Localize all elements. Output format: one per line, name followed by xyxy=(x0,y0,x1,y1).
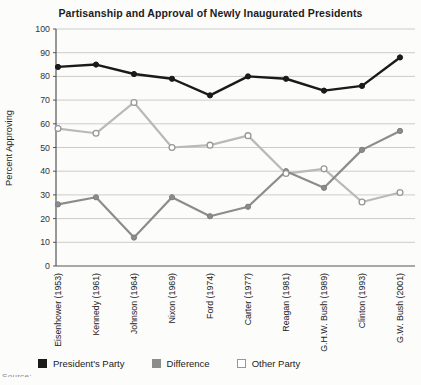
presidents-party-point xyxy=(93,62,98,67)
other-party-point xyxy=(93,130,99,136)
presidents-party-point xyxy=(55,64,60,69)
other-party-point xyxy=(397,190,403,196)
presidents-party-point xyxy=(321,88,326,93)
difference-point xyxy=(321,185,326,190)
y-tick-label: 100 xyxy=(35,24,50,34)
other-party-point xyxy=(359,199,365,205)
x-tick-label: Reagan (1981) xyxy=(281,273,291,332)
y-tick-label: 0 xyxy=(45,261,50,271)
x-tick-label: Clinton (1993) xyxy=(357,273,367,328)
presidents-party-point xyxy=(131,71,136,76)
difference-point xyxy=(93,195,98,200)
presidents-party-point xyxy=(359,83,364,88)
y-tick-label: 80 xyxy=(40,71,50,81)
chart-svg: 0102030405060708090100Percent ApprovingE… xyxy=(0,24,421,354)
chart-legend: President's Party Difference Other Party xyxy=(0,354,421,372)
presidents-party-swatch-icon xyxy=(38,359,47,368)
other-party-point xyxy=(321,166,327,172)
y-tick-label: 30 xyxy=(40,190,50,200)
difference-point xyxy=(169,195,174,200)
other-party-swatch-icon xyxy=(237,359,246,368)
x-tick-label: Ford (1974) xyxy=(205,273,215,319)
x-tick-label: Eisenhower (1953) xyxy=(53,273,63,347)
other-party-point xyxy=(169,145,175,151)
y-axis-title: Percent Approving xyxy=(4,110,14,186)
difference-point xyxy=(359,147,364,152)
difference-point xyxy=(207,214,212,219)
x-tick-label: Nixon (1969) xyxy=(167,273,177,323)
legend-item-presidents-party: President's Party xyxy=(38,358,125,369)
y-tick-label: 20 xyxy=(40,214,50,224)
x-tick-label: Kennedy (1961) xyxy=(91,273,101,336)
legend-item-difference: Difference xyxy=(152,358,210,369)
legend-label-presidents-party: President's Party xyxy=(53,358,125,369)
difference-point xyxy=(397,128,402,133)
legend-label-other-party: Other Party xyxy=(252,358,301,369)
y-tick-label: 70 xyxy=(40,95,50,105)
difference-point xyxy=(55,202,60,207)
other-party-line xyxy=(58,102,400,202)
y-tick-label: 40 xyxy=(40,166,50,176)
y-tick-label: 10 xyxy=(40,237,50,247)
y-tick-label: 50 xyxy=(40,143,50,153)
chart-title: Partisanship and Approval of Newly Inaug… xyxy=(0,0,421,24)
legend-label-difference: Difference xyxy=(167,358,210,369)
other-party-point xyxy=(245,133,251,139)
presidents-party-point xyxy=(397,55,402,60)
presidents-party-point xyxy=(207,93,212,98)
other-party-point xyxy=(131,100,137,106)
presidents-party-point xyxy=(283,76,288,81)
other-party-point xyxy=(283,171,289,177)
difference-point xyxy=(131,235,136,240)
other-party-point xyxy=(55,126,61,132)
y-tick-label: 90 xyxy=(40,48,50,58)
difference-point xyxy=(245,204,250,209)
x-tick-label: Carter (1977) xyxy=(243,273,253,325)
difference-swatch-icon xyxy=(152,359,161,368)
legend-item-other-party: Other Party xyxy=(237,358,301,369)
x-tick-label: Johnson (1964) xyxy=(129,273,139,334)
presidents-party-point xyxy=(245,74,250,79)
clipped-source-line: Source: xyxy=(0,372,421,377)
approval-chart-figure: Partisanship and Approval of Newly Inaug… xyxy=(0,0,421,385)
difference-line xyxy=(58,131,400,238)
presidents-party-point xyxy=(169,76,174,81)
other-party-point xyxy=(207,142,213,148)
x-tick-label: G.W. Bush (2001) xyxy=(395,273,405,343)
x-tick-label: G.H.W. Bush (1989) xyxy=(319,273,329,352)
y-tick-label: 60 xyxy=(40,119,50,129)
